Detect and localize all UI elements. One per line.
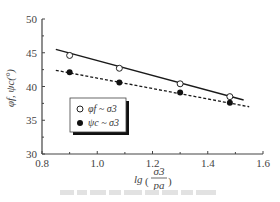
y-tick-label: 35 <box>26 114 38 126</box>
filled-circle-data-point <box>67 69 73 75</box>
y-axis-label: φf, ψc(°) <box>4 69 17 107</box>
x-axis-label: lg ( σ3 pa ) <box>134 165 172 191</box>
open-circle-data-point <box>177 81 183 87</box>
svg-text:lg: lg <box>134 173 143 185</box>
x-tick-label: 1.4 <box>201 157 215 169</box>
y-tick-label: 30 <box>26 148 38 160</box>
open-circle-data-point <box>227 94 233 100</box>
filled-circle-data-point <box>227 100 233 106</box>
x-label-numerator: σ3 <box>154 165 165 177</box>
x-tick-label: 0.8 <box>35 157 49 169</box>
y-tick-label: 50 <box>26 13 38 25</box>
y-tick-label: 40 <box>26 81 38 93</box>
open-circle-marker-icon <box>77 106 83 112</box>
filled-circle-data-point <box>177 90 183 96</box>
figure-caption-faded <box>60 190 240 196</box>
filled-circle-marker-icon <box>77 120 83 126</box>
svg-text:): ) <box>168 175 172 188</box>
open-circle-data-point <box>67 52 73 58</box>
legend: φf ~ σ3 ψc ~ σ3 <box>70 98 129 135</box>
series-phi-f <box>56 49 244 100</box>
svg-text:(: ( <box>145 175 149 188</box>
chart: 0.81.01.21.41.6 3035404550 φf, ψc(°) lg … <box>0 0 280 202</box>
legend-item-phi: φf ~ σ3 <box>88 103 117 114</box>
legend-item-psi: ψc ~ σ3 <box>88 117 119 128</box>
x-tick-label: 1.6 <box>256 157 270 169</box>
filled-circle-data-point <box>116 79 122 85</box>
x-tick-label: 1.0 <box>90 157 104 169</box>
fit-line <box>56 49 244 100</box>
y-tick-label: 45 <box>26 47 38 59</box>
open-circle-data-point <box>116 65 122 71</box>
